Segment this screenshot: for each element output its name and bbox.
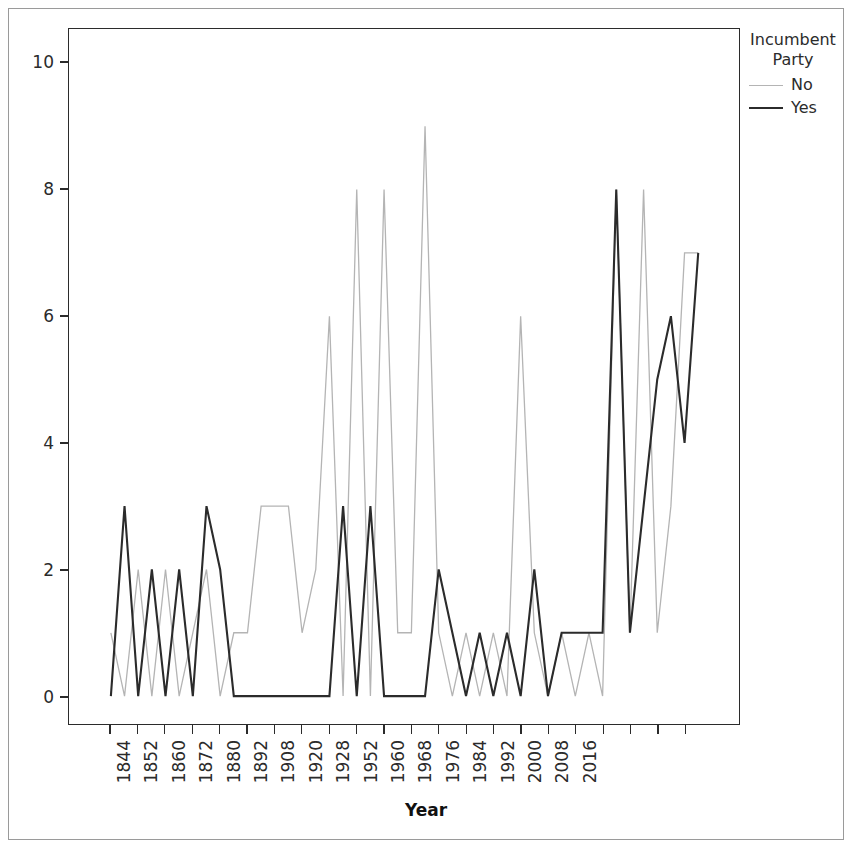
x-tick-mark (438, 725, 439, 734)
x-tick-label: 1968 (417, 740, 434, 783)
y-tick-label: 2 (43, 562, 54, 579)
legend: Incumbent Party NoYes (745, 30, 845, 116)
legend-label: Yes (791, 100, 817, 116)
x-tick-label: 1860 (171, 740, 188, 783)
x-tick-mark (685, 725, 686, 734)
x-tick-label: 1952 (363, 740, 380, 783)
legend-title-line-2: Party (745, 50, 841, 70)
x-tick-mark (493, 725, 494, 734)
legend-entry-no[interactable]: No (745, 77, 845, 93)
x-tick-mark (630, 725, 631, 734)
x-tick-mark (411, 725, 412, 734)
x-tick-mark (301, 725, 302, 734)
y-tick-label: 6 (43, 308, 54, 325)
x-tick-mark (383, 725, 384, 734)
x-tick-label: 1908 (280, 740, 297, 783)
series-lines (69, 29, 739, 724)
x-tick-mark (520, 725, 521, 734)
legend-label: No (791, 77, 813, 93)
chart-figure: 0246810 18441852186018721880189219081920… (0, 0, 852, 848)
plot-area (68, 28, 740, 725)
legend-title: Incumbent Party (745, 30, 841, 70)
x-tick-label: 1992 (500, 740, 517, 783)
x-tick-mark (164, 725, 165, 734)
y-tick-label: 0 (43, 689, 54, 706)
x-tick-mark (219, 725, 220, 734)
y-tick-label: 8 (43, 181, 54, 198)
legend-entries: NoYes (745, 77, 845, 116)
y-tick-label: 10 (32, 54, 54, 71)
x-tick-label: 1920 (308, 740, 325, 783)
y-axis-labels: 0246810 (0, 0, 54, 848)
x-tick-label: 1872 (198, 740, 215, 783)
x-tick-mark (356, 725, 357, 734)
x-tick-mark (603, 725, 604, 734)
legend-title-line-1: Incumbent (745, 30, 841, 50)
x-tick-mark (109, 725, 110, 734)
x-tick-mark (246, 725, 247, 734)
x-tick-mark (575, 725, 576, 734)
x-tick-label: 2000 (527, 740, 544, 783)
x-tick-mark (192, 725, 193, 734)
x-tick-label: 1984 (472, 740, 489, 783)
x-tick-label: 1976 (445, 740, 462, 783)
x-tick-label: 2008 (554, 740, 571, 783)
legend-entry-yes[interactable]: Yes (745, 100, 845, 116)
x-tick-label: 1852 (143, 740, 160, 783)
legend-line-swatch (749, 85, 783, 86)
x-tick-label: 1892 (253, 740, 270, 783)
x-tick-mark (548, 725, 549, 734)
x-tick-label: 2016 (582, 740, 599, 783)
x-axis-title: Year (0, 800, 852, 820)
x-tick-label: 1928 (335, 740, 352, 783)
x-tick-mark (274, 725, 275, 734)
x-tick-label: 1880 (226, 740, 243, 783)
y-tick-label: 4 (43, 435, 54, 452)
legend-line-swatch (749, 107, 783, 109)
x-tick-mark (657, 725, 658, 734)
series-line-yes (111, 190, 698, 697)
x-tick-label: 1960 (390, 740, 407, 783)
x-tick-mark (137, 725, 138, 734)
x-tick-label: 1844 (116, 740, 133, 783)
x-tick-mark (466, 725, 467, 734)
x-tick-mark (329, 725, 330, 734)
